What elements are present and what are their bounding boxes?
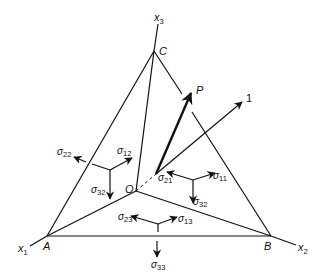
point-label-O: O: [125, 183, 134, 195]
stress-label-s32-right: σ32: [193, 196, 207, 209]
point-label-P: P: [196, 84, 204, 96]
edge-CO: [136, 51, 154, 191]
edge-CA: [47, 51, 154, 236]
s11-arrow: [193, 173, 215, 180]
normal-dashed-line: [136, 174, 156, 191]
axis-label-x2: x2: [297, 241, 308, 256]
s22-stub: [92, 164, 110, 170]
x2-axis-line: [271, 236, 296, 245]
edge-CB-upper: [154, 51, 182, 94]
stress-tetrahedron-diagram: C A B O P 1 x3 x1 x2 σ22 σ12 σ32 σ21 σ11…: [0, 0, 324, 278]
point-label-C: C: [159, 45, 167, 57]
edge-OB: [136, 191, 271, 236]
stress-label-s12: σ12: [117, 145, 131, 158]
stress-label-s33: σ33: [151, 259, 165, 272]
stress-label-s11: σ11: [213, 170, 227, 183]
point-label-B: B: [264, 240, 271, 252]
normal-arrow-1: [156, 102, 242, 174]
s13-arrow: [158, 217, 177, 224]
axis-label-x3: x3: [153, 11, 164, 26]
stress-label-s21: σ21: [158, 172, 172, 185]
direction-label-1: 1: [246, 92, 252, 104]
stress-label-s23: σ23: [118, 211, 132, 224]
point-label-A: A: [42, 240, 50, 252]
diagram-canvas: C A B O P 1 x3 x1 x2 σ22 σ12 σ32 σ21 σ11…: [0, 0, 324, 278]
s23-arrow: [131, 216, 158, 224]
stress-label-s22: σ22: [57, 146, 71, 159]
edge-CB-lower: [192, 112, 271, 236]
s22-arrow: [74, 157, 86, 162]
axis-label-x1: x1: [17, 242, 28, 257]
stress-label-s13: σ13: [178, 213, 192, 226]
stress-element-right: [167, 172, 215, 203]
x3-axis-line: [154, 24, 158, 51]
traction-arrow-P: [156, 93, 191, 174]
stress-label-s32-left: σ32: [91, 184, 105, 197]
s12-arrow: [110, 158, 132, 170]
